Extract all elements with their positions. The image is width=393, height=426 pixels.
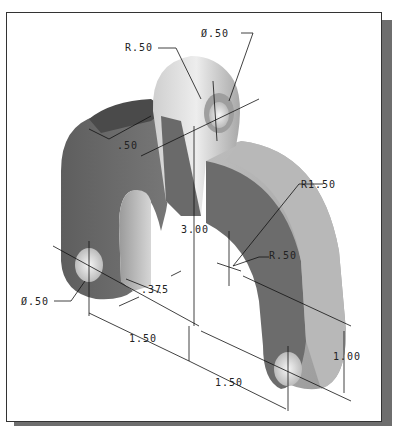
- dim-thickness: .50: [117, 140, 138, 151]
- dim-outer-radius: R1.50: [301, 179, 336, 190]
- dim-lug-radius: R.50: [125, 42, 153, 53]
- dim-lug-hole-dia: Ø.50: [201, 28, 229, 39]
- dim-height: 3.00: [181, 224, 209, 235]
- dim-spacing-left: 1.50: [129, 333, 157, 344]
- dim-inner-radius: R.50: [269, 250, 297, 261]
- dim-spacing-right: 1.50: [215, 377, 243, 388]
- dim-offset: .375: [141, 284, 169, 295]
- dim-leg-depth: 1.00: [333, 351, 361, 362]
- frame-shadow-right: [381, 20, 392, 426]
- drawing-frame: R.50 Ø.50 .50 3.00 R1.50 R.50 Ø.50 .375 …: [6, 12, 382, 422]
- bracket-drawing: R.50 Ø.50 .50 3.00 R1.50 R.50 Ø.50 .375 …: [7, 13, 381, 421]
- dim-foot-hole-dia: Ø.50: [21, 296, 49, 307]
